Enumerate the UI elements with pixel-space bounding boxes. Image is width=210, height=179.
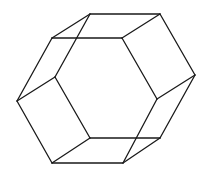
edge-2 — [52, 14, 90, 38]
edge-3 — [122, 14, 160, 38]
polyhedron-wireframe — [0, 0, 210, 179]
edge-5 — [122, 38, 157, 99]
edge-15 — [17, 101, 52, 163]
edge-4 — [160, 14, 195, 75]
edge-13 — [55, 77, 90, 138]
edge-7 — [160, 75, 195, 138]
edge-11 — [52, 138, 90, 163]
edge-8 — [123, 99, 157, 163]
edge-17 — [55, 14, 90, 77]
edge-12 — [123, 138, 160, 163]
edge-6 — [157, 75, 195, 99]
edge-16 — [17, 38, 52, 101]
edge-14 — [17, 77, 55, 101]
